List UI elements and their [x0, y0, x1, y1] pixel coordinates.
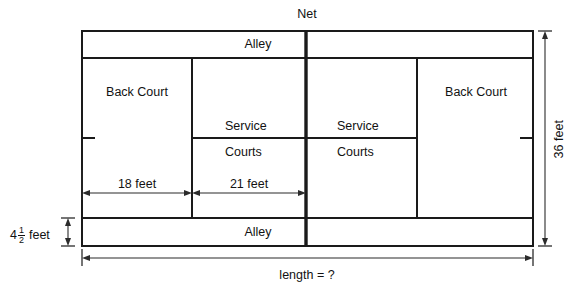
- dim-36feet-label: 36 feet: [553, 111, 566, 167]
- dim-alley-arrow-bottom: [65, 238, 71, 246]
- alley-width-denominator: 2: [18, 236, 25, 245]
- tennis-court-diagram: Net Alley Alley Back Court Back Court Se…: [0, 0, 580, 294]
- service-right-label-line1: Service: [337, 120, 379, 133]
- dim-length-arrow-left: [82, 255, 90, 261]
- service-left-label-line2: Courts: [225, 146, 262, 159]
- dim-alley-arrow-top: [65, 218, 71, 226]
- dim-36feet-arrow-top: [542, 31, 548, 39]
- dim-length-arrow-right: [525, 255, 533, 261]
- alley-bottom-label: Alley: [244, 226, 271, 239]
- service-right-label-line2: Courts: [337, 146, 374, 159]
- back-court-left-label: Back Court: [106, 86, 168, 99]
- dim-length-label: length = ?: [279, 269, 334, 282]
- net-label: Net: [297, 8, 316, 21]
- dim-21feet-label: 21 feet: [230, 178, 268, 191]
- dim-36feet-arrow-bottom: [542, 238, 548, 246]
- dim-alley-width-label: 4 1 2 feet: [10, 226, 50, 245]
- alley-top-label: Alley: [244, 38, 271, 51]
- alley-width-fraction: 1 2: [18, 226, 25, 245]
- back-court-right-label: Back Court: [445, 86, 507, 99]
- alley-width-whole: 4: [10, 229, 17, 242]
- service-left-label-line1: Service: [225, 120, 267, 133]
- court-diagram-svg: [0, 0, 580, 294]
- alley-width-unit: feet: [29, 229, 50, 242]
- alley-width-numerator: 1: [18, 226, 25, 235]
- dim-18feet-label: 18 feet: [118, 178, 156, 191]
